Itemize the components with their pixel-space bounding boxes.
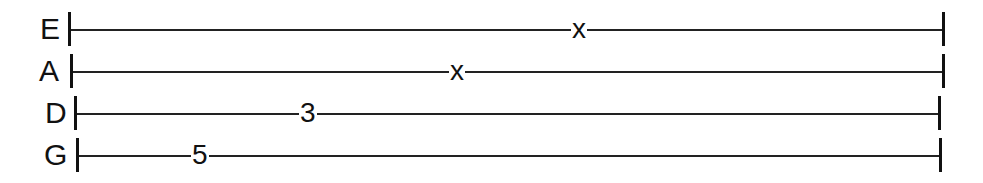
- right-barline: [942, 54, 945, 88]
- fret-note: x: [571, 15, 587, 43]
- fret-note: 5: [191, 141, 209, 169]
- string-line: [77, 113, 938, 115]
- tab-string-g: G5: [0, 156, 983, 183]
- right-barline: [939, 138, 942, 172]
- string-label: D: [45, 98, 67, 128]
- string-label: A: [39, 56, 59, 86]
- string-label: G: [44, 140, 67, 170]
- tab-string-d: D3: [0, 114, 983, 156]
- tab-string-a: Ax: [0, 72, 983, 114]
- fret-note: x: [449, 57, 465, 85]
- fret-note: 3: [299, 99, 317, 127]
- right-barline: [942, 12, 945, 46]
- string-line: [73, 71, 942, 73]
- tab-string-e: Ex: [0, 30, 983, 72]
- string-line: [71, 29, 942, 31]
- string-label: E: [40, 14, 60, 44]
- right-barline: [938, 96, 941, 130]
